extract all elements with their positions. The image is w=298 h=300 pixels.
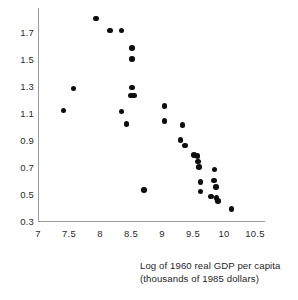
data-point [198,189,204,195]
caption-line-1: Log of 1960 real GDP per capita [140,259,298,272]
data-point [198,179,204,185]
y-tick-label: 1.7 [4,27,34,38]
x-tick-label: 10.5 [245,228,264,239]
data-point [213,184,219,190]
y-tick-label: 0.5 [4,189,34,200]
y-tick-label: 0.7 [4,162,34,173]
plot-area [38,8,264,221]
data-point [162,118,168,124]
y-axis-tick-labels: 1.71.51.31.10.90.70.50.3 [0,0,34,300]
data-point [180,122,186,128]
data-point [211,178,217,184]
x-tick-label: 10 [219,228,230,239]
x-tick-label: 7 [35,228,40,239]
data-point [119,28,125,34]
y-tick-label: 0.3 [4,216,34,227]
x-axis-caption: Log of 1960 real GDP per capita (thousan… [140,259,298,285]
x-tick-label: 9.5 [186,228,200,239]
data-point [71,86,77,92]
data-point [182,143,188,149]
data-point [124,121,130,127]
scatter-chart: 1.71.51.31.10.90.70.50.3 77.588.599.5101… [0,0,298,300]
x-tick-label: 7.5 [62,228,76,239]
y-tick-label: 1.5 [4,54,34,65]
y-tick-label: 0.9 [4,135,34,146]
data-point [119,109,125,115]
y-tick-label: 1.3 [4,81,34,92]
data-point [215,198,221,204]
data-point [129,45,135,51]
data-point [196,164,202,170]
data-point [93,16,99,22]
data-point [107,28,113,34]
data-point [229,206,235,212]
data-point [162,103,168,109]
data-point [212,167,218,173]
data-point [141,187,147,193]
data-point [129,85,135,91]
caption-line-2: (thousands of 1985 dollars) [140,272,298,285]
data-point [178,137,184,143]
x-axis-line [38,221,265,222]
data-point [129,56,135,62]
data-point [61,108,67,114]
y-tick-label: 1.1 [4,108,34,119]
x-tick-label: 8.5 [124,228,138,239]
data-point [208,194,214,200]
x-tick-label: 9 [159,228,164,239]
data-point [131,93,137,99]
x-tick-label: 8 [97,228,102,239]
